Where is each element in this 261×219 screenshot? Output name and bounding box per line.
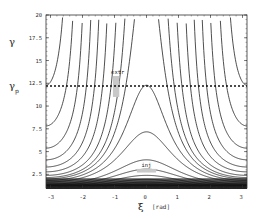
x-tick-label: 0: [144, 194, 147, 200]
y-tick-label: 17.5: [29, 35, 42, 41]
y-tick-label: 20: [35, 12, 42, 18]
gamma-p-subscript: p: [15, 87, 19, 95]
y-tick-label: 2.5: [32, 171, 42, 177]
y-tick-label: 7.5: [32, 126, 42, 132]
extr-label: extr: [111, 69, 125, 75]
x-tick-label: -1: [111, 194, 118, 200]
y-tick-label: 15: [35, 58, 42, 64]
inj-region: [137, 169, 156, 173]
x-tick-label: 1: [176, 194, 179, 200]
y-axis-label: γ: [9, 36, 15, 47]
y-tick-label: 12.5: [29, 80, 42, 86]
x-tick-label: 3: [240, 194, 243, 200]
x-axis-unit: [rad]: [152, 203, 170, 210]
x-tick-label: -3: [47, 194, 54, 200]
inj-label: inj: [142, 162, 152, 169]
x-axis-label: ξ: [138, 201, 144, 212]
y-tick-label: 5: [39, 149, 42, 155]
y-tick-label: 10: [35, 103, 42, 109]
x-tick-label: 2: [208, 194, 211, 200]
contour-plot: -3-2-101232.557.51012.51517.520 extr inj…: [0, 0, 261, 219]
x-tick-label: -2: [79, 194, 86, 200]
